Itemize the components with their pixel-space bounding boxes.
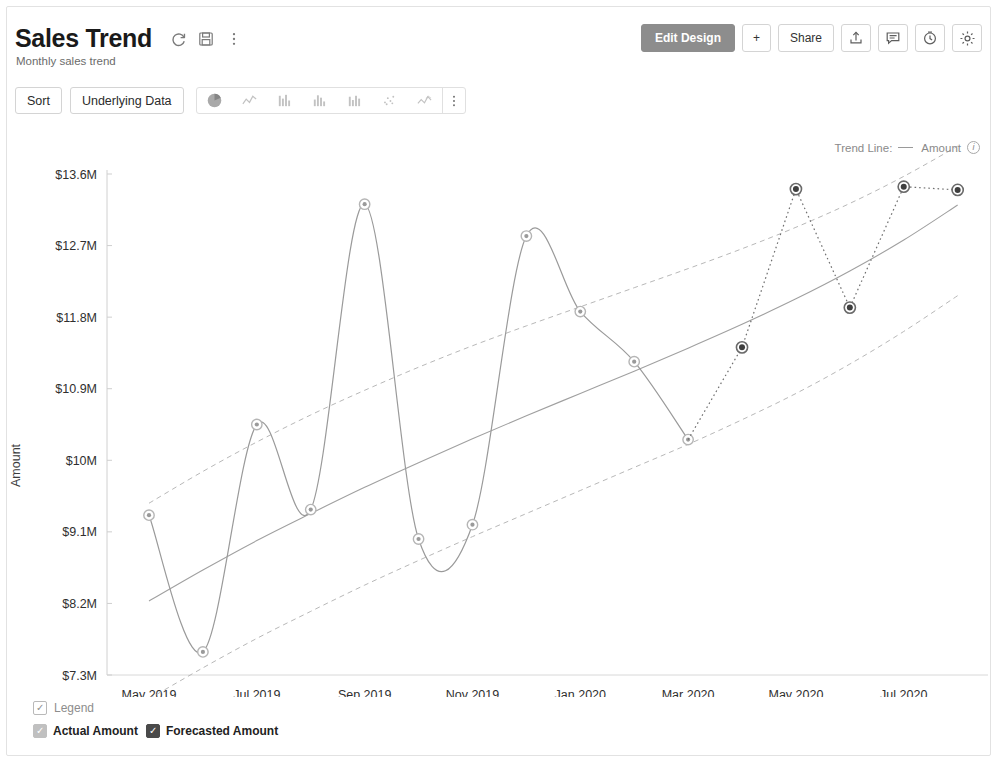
y-axis-title: Amount — [9, 444, 23, 487]
bar-chart-icon[interactable] — [267, 88, 302, 113]
chart-app: Sales Trend — [0, 0, 997, 762]
data-point-actual-core — [255, 422, 259, 426]
x-axis-tick-label: Mar 2020 — [662, 688, 715, 697]
share-button[interactable]: Share — [778, 24, 834, 52]
chart-card: Sales Trend — [6, 6, 991, 756]
trend-line-legend: Trend Line: Amount i — [835, 141, 980, 154]
data-point-actual-core — [416, 537, 420, 541]
confidence-band-line — [149, 146, 958, 503]
data-point-forecast-core — [847, 305, 853, 311]
title-group: Sales Trend — [15, 26, 243, 51]
page-title: Sales Trend — [15, 26, 152, 51]
data-point-forecast-core — [793, 186, 799, 192]
page-subtitle: Monthly sales trend — [16, 55, 116, 67]
data-point-forecast-core — [901, 184, 907, 190]
edit-design-button[interactable]: Edit Design — [641, 24, 735, 52]
history-button[interactable] — [915, 24, 945, 52]
export-icon — [848, 30, 864, 46]
y-axis-tick-label: $9.1M — [62, 525, 97, 539]
x-axis-tick-label: Nov 2019 — [446, 688, 500, 697]
export-button[interactable] — [841, 24, 871, 52]
gear-icon — [959, 30, 975, 46]
add-button[interactable]: + — [742, 24, 771, 52]
y-axis-tick-label: $8.2M — [62, 597, 97, 611]
trend-line — [149, 205, 958, 601]
header-actions: Edit Design + Share — [641, 24, 982, 52]
data-point-forecast-core — [955, 187, 961, 193]
legend-toggle-row: ✓ Legend — [33, 701, 278, 715]
legend-checkbox-forecasted[interactable]: ✓ — [146, 724, 160, 738]
trend-line-label: Trend Line: — [835, 142, 893, 154]
line-chart-plot[interactable]: $13.6M$12.7M$11.8M$10.9M$10M$9.1M$8.2M$7… — [7, 127, 990, 697]
settings-button[interactable] — [952, 24, 982, 52]
y-axis-tick-label: $10.9M — [55, 382, 97, 396]
history-icon — [922, 30, 938, 46]
x-axis-tick-label: May 2019 — [122, 688, 177, 697]
legend-checkbox-actual[interactable]: ✓ — [33, 724, 47, 738]
legend-item-forecasted[interactable]: ✓ Forecasted Amount — [146, 724, 278, 738]
data-point-actual-core — [524, 234, 528, 238]
chart-toolbar: Sort Underlying Data — [15, 87, 466, 114]
pie-chart-icon[interactable] — [197, 88, 232, 113]
y-axis-tick-label: $12.7M — [55, 239, 97, 253]
comment-icon — [885, 30, 901, 46]
legend-item-actual[interactable]: ✓ Actual Amount — [33, 724, 138, 738]
chart-legend: ✓ Legend ✓ Actual Amount ✓ Forecasted Am… — [33, 701, 278, 738]
more-vertical-icon[interactable] — [226, 31, 243, 48]
y-axis-tick-label: $13.6M — [55, 168, 97, 182]
data-point-actual-core — [201, 650, 205, 654]
area-chart-icon[interactable] — [407, 88, 442, 113]
x-axis-tick-label: Sep 2019 — [338, 688, 392, 697]
stacked-bar-chart-icon[interactable] — [337, 88, 372, 113]
refresh-icon[interactable] — [170, 31, 187, 48]
underlying-data-button[interactable]: Underlying Data — [70, 87, 184, 114]
title-actions — [170, 31, 243, 48]
legend-label-forecasted: Forecasted Amount — [166, 724, 278, 738]
data-point-actual-core — [632, 360, 636, 364]
sort-button[interactable]: Sort — [15, 87, 62, 114]
x-axis-tick-label: May 2020 — [768, 688, 823, 697]
comment-button[interactable] — [878, 24, 908, 52]
trend-line-series: Amount — [921, 142, 961, 154]
legend-label: Legend — [54, 701, 94, 715]
data-point-forecast-core — [739, 344, 745, 350]
y-axis-title-host: Amount — [33, 127, 53, 687]
card-header: Sales Trend — [7, 7, 990, 79]
info-icon[interactable]: i — [967, 141, 980, 154]
scatter-chart-icon[interactable] — [372, 88, 407, 113]
data-point-actual-core — [363, 202, 367, 206]
chart-type-group — [196, 87, 466, 114]
chart-toolbar-more-icon[interactable] — [443, 94, 465, 108]
legend-checkbox[interactable]: ✓ — [33, 701, 47, 715]
y-axis-tick-label: $10M — [66, 454, 97, 468]
y-axis-tick-label: $11.8M — [56, 311, 97, 325]
chart-area: Trend Line: Amount i Amount $13.6M$12.7M… — [7, 127, 990, 697]
data-point-actual-core — [309, 507, 313, 511]
legend-series-row: ✓ Actual Amount ✓ Forecasted Amount — [33, 724, 278, 738]
data-point-actual-core — [578, 309, 582, 313]
x-axis-tick-label: Jul 2019 — [233, 688, 280, 697]
x-axis-tick-label: Jan 2020 — [555, 688, 606, 697]
legend-label-actual: Actual Amount — [53, 724, 138, 738]
actual-amount-line — [149, 204, 688, 653]
column-chart-icon[interactable] — [302, 88, 337, 113]
forecasted-amount-line — [688, 187, 958, 440]
data-point-actual-core — [147, 513, 151, 517]
x-axis-tick-label: Jul 2020 — [880, 688, 927, 697]
data-point-actual-core — [470, 523, 474, 527]
save-icon[interactable] — [198, 31, 215, 48]
y-axis-tick-label: $7.3M — [62, 669, 97, 683]
confidence-band-line — [149, 296, 958, 697]
trend-line-swatch — [898, 147, 913, 148]
line-chart-icon[interactable] — [232, 88, 267, 113]
